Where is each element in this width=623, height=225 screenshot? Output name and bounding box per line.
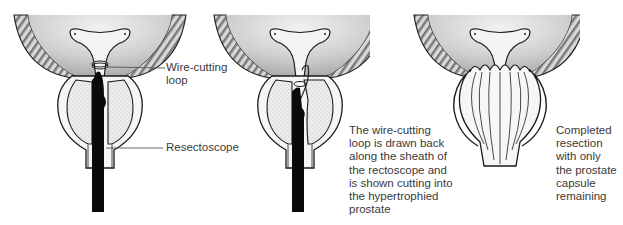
- panel-2-illustration: [200, 0, 370, 225]
- panel-3-illustration: [410, 0, 580, 225]
- capsule-ribs: [472, 72, 529, 164]
- resectoscope: [92, 72, 106, 212]
- panel-1-illustration: [0, 0, 210, 225]
- ureteric-orifice: [74, 33, 76, 35]
- ureteric-orifice: [124, 33, 126, 35]
- caption-panel-3: Completed resection with only the prosta…: [556, 124, 617, 203]
